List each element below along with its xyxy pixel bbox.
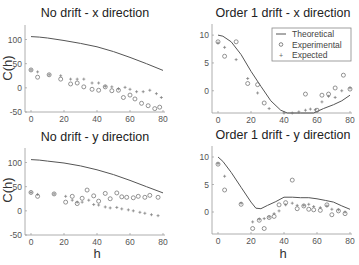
expected-point bbox=[97, 82, 100, 85]
x-tick-label: 80 bbox=[345, 115, 355, 125]
x-tick-label: 40 bbox=[92, 237, 102, 247]
expected-point bbox=[129, 88, 132, 91]
y-tick-label: 5 bbox=[204, 180, 209, 190]
expected-point bbox=[48, 73, 51, 76]
expected-point bbox=[307, 203, 310, 206]
subplot-title: Order 1 drift - y direction bbox=[216, 128, 351, 142]
experimental-point bbox=[341, 73, 345, 77]
experimental-point bbox=[69, 82, 73, 86]
expected-point bbox=[148, 89, 151, 92]
experimental-point bbox=[148, 193, 152, 197]
expected-point bbox=[330, 208, 333, 211]
expected-point bbox=[223, 46, 226, 49]
x-tick-label: 0 bbox=[29, 114, 34, 124]
subplot-order1-drift-y: Order 1 drift - y direction h 0204060800… bbox=[200, 128, 355, 261]
expected-point bbox=[110, 85, 113, 88]
plot-area bbox=[216, 157, 350, 231]
legend-entry-experimental: Experimental bbox=[292, 40, 342, 50]
expected-point bbox=[251, 220, 254, 223]
expected-point bbox=[160, 96, 163, 99]
x-tick-label: 80 bbox=[345, 236, 355, 246]
subplot-no-drift-x: No drift - x direction C(h) 020406080-50… bbox=[0, 6, 168, 124]
expected-point bbox=[157, 214, 160, 217]
experimental-point bbox=[97, 199, 101, 203]
experimental-point bbox=[85, 188, 89, 192]
experimental-point bbox=[97, 88, 101, 92]
expected-point bbox=[132, 209, 135, 212]
expected-point bbox=[117, 87, 120, 90]
x-tick-label: 20 bbox=[59, 114, 69, 124]
subplot-no-drift-y: No drift - y direction C(h) h 020406080-… bbox=[0, 130, 168, 261]
experimental-point bbox=[307, 207, 311, 211]
plot-area bbox=[29, 37, 163, 111]
experimental-point bbox=[143, 195, 147, 199]
expected-point bbox=[76, 78, 79, 81]
expected-point bbox=[320, 100, 323, 103]
expected-point bbox=[92, 203, 95, 206]
y-tick-label: 10 bbox=[200, 30, 210, 40]
expected-point bbox=[115, 206, 118, 209]
expected-point bbox=[309, 108, 312, 111]
expected-point bbox=[71, 199, 74, 202]
experimental-point bbox=[333, 86, 337, 90]
experimental-point bbox=[223, 54, 227, 58]
experimental-point bbox=[103, 191, 107, 195]
x-tick-label: 0 bbox=[29, 237, 34, 247]
experimental-point bbox=[277, 203, 281, 207]
experimental-point bbox=[133, 97, 137, 101]
subplot-title: No drift - x direction bbox=[41, 6, 149, 20]
experimental-point bbox=[330, 213, 334, 217]
y-tick-label: -50 bbox=[10, 230, 23, 240]
experimental-point bbox=[256, 83, 260, 87]
experimental-point bbox=[312, 208, 316, 212]
expected-point bbox=[327, 95, 330, 98]
expected-point bbox=[344, 211, 347, 214]
legend-entry-expected: Expected bbox=[292, 50, 328, 60]
y-tick-label: 5 bbox=[204, 58, 209, 68]
x-axis-label: h bbox=[279, 246, 286, 261]
axes: 020406080-50050100 bbox=[8, 148, 168, 247]
x-tick-label: 0 bbox=[216, 115, 221, 125]
expected-point bbox=[246, 77, 249, 80]
expected-point bbox=[109, 206, 112, 209]
expected-point bbox=[235, 58, 238, 61]
expected-point bbox=[36, 70, 39, 73]
y-tick-label: -50 bbox=[10, 107, 23, 117]
y-tick-label: 0 bbox=[204, 207, 209, 217]
expected-point bbox=[334, 96, 337, 99]
axes: 020406080-50050100 bbox=[8, 25, 168, 124]
expected-point bbox=[223, 175, 226, 178]
x-tick-label: 20 bbox=[246, 236, 256, 246]
expected-point bbox=[76, 201, 79, 204]
expected-point bbox=[278, 209, 281, 212]
expected-point bbox=[150, 213, 153, 216]
x-tick-label: 20 bbox=[246, 115, 256, 125]
x-tick-label: 60 bbox=[125, 114, 135, 124]
expected-point bbox=[268, 107, 271, 110]
experimental-point bbox=[121, 96, 125, 100]
expected-point bbox=[142, 90, 145, 93]
y-tick-label: 0 bbox=[17, 83, 22, 93]
expected-point bbox=[30, 68, 33, 71]
y-tick-label: 100 bbox=[8, 158, 22, 168]
expected-point bbox=[138, 211, 141, 214]
expected-point bbox=[143, 212, 146, 215]
expected-point bbox=[30, 191, 33, 194]
experimental-point bbox=[153, 107, 157, 111]
y-tick-label: 50 bbox=[13, 59, 23, 69]
y-tick-label: 10 bbox=[200, 152, 210, 162]
expected-point bbox=[97, 204, 100, 207]
x-tick-label: 20 bbox=[59, 237, 69, 247]
expected-point bbox=[291, 112, 294, 115]
experimental-point bbox=[90, 87, 94, 91]
subplot-order1-drift-x: Order 1 drift - x direction 020406080051… bbox=[200, 6, 355, 125]
plot-area bbox=[29, 160, 163, 218]
expected-point bbox=[81, 201, 84, 204]
experimental-point bbox=[131, 196, 135, 200]
expected-point bbox=[296, 204, 299, 207]
figure: No drift - x direction C(h) 020406080-50… bbox=[0, 0, 359, 265]
expected-point bbox=[124, 86, 127, 89]
expected-point bbox=[340, 89, 343, 92]
expected-point bbox=[53, 192, 56, 195]
x-tick-label: 0 bbox=[216, 236, 221, 246]
